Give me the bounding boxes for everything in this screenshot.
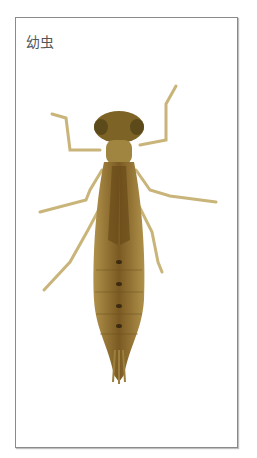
larva-illustration [0,0,257,458]
cerci [113,350,125,384]
